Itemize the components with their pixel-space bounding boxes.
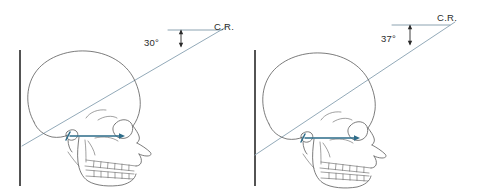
sphenoid-detail-right — [333, 118, 352, 122]
coronoid-process-left — [88, 141, 95, 155]
maxilla-anterior-left — [136, 154, 141, 166]
mandible-ramus-anterior-right — [320, 142, 321, 164]
angle-label-right: 37° — [381, 33, 396, 44]
left-panel: 30° C.R. — [20, 21, 234, 186]
mastoid-process-left — [68, 140, 72, 152]
sphenoid-detail-left — [98, 116, 117, 120]
central-ray-line-left — [22, 26, 228, 146]
central-ray-line-right — [255, 22, 455, 155]
orbitomeatal-arrow-head-left — [119, 133, 125, 139]
right-panel: 37° C.R. — [255, 12, 457, 188]
mandible-ramus-anterior-left — [85, 140, 86, 162]
orbitomeatal-arrow-head-right — [354, 135, 360, 141]
angle-arrow-head-down-right — [408, 41, 412, 46]
cr-label-left: C.R. — [214, 21, 234, 32]
cranium-outline-left — [28, 51, 141, 126]
mandibular-teeth-upper-left — [86, 170, 134, 174]
frontal-nasion-left — [133, 126, 139, 143]
coronoid-process-right — [323, 143, 330, 157]
zygomatic-arch-right — [330, 139, 353, 143]
temporal-detail-right — [321, 112, 341, 120]
mandibular-teeth-lower-left — [86, 176, 133, 179]
figure-root: 30° C.R. — [0, 0, 479, 191]
diagram-canvas: 30° C.R. — [0, 0, 479, 191]
frontal-nasion-right — [368, 128, 374, 145]
mastoid-process-right — [303, 142, 307, 154]
maxillary-teeth-dividers-right — [328, 163, 364, 173]
occipital-outline-left — [34, 122, 68, 137]
cranium-outline-right — [263, 53, 376, 128]
mandibular-teeth-upper-right — [321, 172, 369, 176]
zygomatic-arch-left — [95, 137, 118, 141]
cr-label-right: C.R. — [437, 12, 457, 23]
angle-arrow-head-down-left — [179, 43, 183, 48]
maxillary-teeth-dividers-left — [93, 161, 129, 171]
temporal-detail-left — [86, 110, 106, 118]
mandibular-teeth-lower-right — [321, 178, 368, 181]
angle-label-left: 30° — [144, 37, 159, 48]
maxilla-anterior-right — [371, 156, 376, 168]
